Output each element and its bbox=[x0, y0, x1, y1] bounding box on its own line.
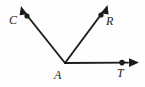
point-dot-t bbox=[119, 60, 125, 66]
point-label-r: R bbox=[106, 15, 113, 27]
ray-ar-line bbox=[65, 13, 103, 64]
arrowhead-t-icon bbox=[129, 58, 139, 67]
point-label-a: A bbox=[54, 69, 61, 81]
ray-at bbox=[65, 58, 139, 67]
geometry-figure: C R A T bbox=[0, 0, 145, 87]
point-label-t: T bbox=[117, 67, 124, 79]
arrowhead-r-icon bbox=[101, 5, 109, 14]
point-label-c: C bbox=[9, 14, 17, 26]
arrowhead-c-icon bbox=[20, 6, 28, 15]
ray-ac-line bbox=[26, 14, 66, 64]
ray-ar bbox=[65, 5, 109, 63]
ray-ac bbox=[20, 6, 65, 63]
